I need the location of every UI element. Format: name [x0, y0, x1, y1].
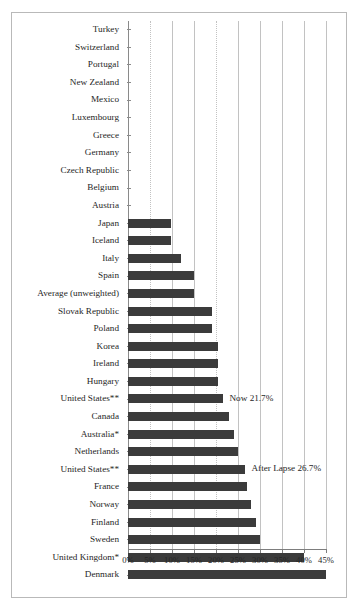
category-label: Japan — [12, 215, 125, 233]
bar-row — [128, 197, 326, 215]
bar — [128, 447, 238, 456]
bar — [128, 570, 326, 579]
x-tick-label: 25% — [230, 555, 246, 565]
category-label: Korea — [12, 338, 125, 356]
bar-row — [128, 338, 326, 356]
category-label: Ireland — [12, 355, 125, 373]
category-label: Germany — [12, 144, 125, 162]
category-label: Denmark — [12, 566, 125, 584]
x-tick — [326, 549, 327, 553]
bar — [128, 236, 171, 245]
category-label: Greece — [12, 127, 125, 145]
x-tick-label: 15% — [186, 555, 202, 565]
bar-row — [128, 303, 326, 321]
category-label: United Kingdom* — [12, 549, 125, 567]
bar-row — [128, 21, 326, 39]
category-tick — [127, 82, 131, 83]
category-label: Average (unweighted) — [12, 285, 125, 303]
bar-rows: Now 21.7%After Lapse 26.7% — [128, 21, 326, 549]
category-tick — [127, 47, 131, 48]
bar-row — [128, 127, 326, 145]
x-tick — [150, 549, 151, 553]
bar-row — [128, 250, 326, 268]
x-tick — [216, 549, 217, 553]
bar-row — [128, 496, 326, 514]
x-tick — [260, 549, 261, 553]
bar-row — [128, 109, 326, 127]
bar-row — [128, 566, 326, 584]
category-label: United States** — [12, 390, 125, 408]
bar — [128, 394, 223, 403]
category-label: Portugal — [12, 56, 125, 74]
category-label: Czech Republic — [12, 162, 125, 180]
bar — [128, 465, 245, 474]
bar — [128, 324, 212, 333]
bar — [128, 430, 234, 439]
category-label: Turkey — [12, 21, 125, 39]
category-label: Spain — [12, 267, 125, 285]
x-tick-label: 30% — [252, 555, 268, 565]
bar-row — [128, 179, 326, 197]
bar — [128, 359, 218, 368]
bar-row — [128, 514, 326, 532]
category-tick — [127, 170, 131, 171]
category-tick — [127, 100, 131, 101]
category-tick — [127, 117, 131, 118]
bar — [128, 271, 194, 280]
x-tick-label: 20% — [208, 555, 224, 565]
bar — [128, 289, 194, 298]
bar — [128, 219, 171, 228]
bar-row — [128, 373, 326, 391]
category-label: Mexico — [12, 91, 125, 109]
bar-row — [128, 408, 326, 426]
category-label: Austria — [12, 197, 125, 215]
category-label: Iceland — [12, 232, 125, 250]
bar-row — [128, 56, 326, 74]
gridline-45pct — [326, 21, 327, 549]
x-tick — [172, 549, 173, 553]
category-label: Belgium — [12, 179, 125, 197]
x-tick-label: 5% — [144, 555, 155, 565]
bar-row — [128, 531, 326, 549]
bar-row — [128, 355, 326, 373]
bar-row — [128, 162, 326, 180]
category-label: Switzerland — [12, 39, 125, 57]
bar-row — [128, 443, 326, 461]
x-axis — [128, 549, 326, 551]
category-tick — [127, 29, 131, 30]
bar — [128, 377, 218, 386]
category-label: Italy — [12, 250, 125, 268]
x-axis-line — [128, 549, 326, 550]
bar — [128, 500, 251, 509]
x-tick — [304, 549, 305, 553]
bar — [128, 518, 256, 527]
bar — [128, 482, 247, 491]
bar-row — [128, 320, 326, 338]
category-label: Luxembourg — [12, 109, 125, 127]
bar-row — [128, 426, 326, 444]
x-tick — [128, 549, 129, 553]
bar-row — [128, 74, 326, 92]
bar-row — [128, 267, 326, 285]
x-tick-label: 35% — [274, 555, 290, 565]
x-tick — [238, 549, 239, 553]
bar-row: Now 21.7% — [128, 390, 326, 408]
category-label: Norway — [12, 496, 125, 514]
bar — [128, 535, 260, 544]
category-label: United States** — [12, 461, 125, 479]
category-tick — [127, 205, 131, 206]
bar-row — [128, 91, 326, 109]
category-label: Hungary — [12, 373, 125, 391]
chart-figure: TurkeySwitzerlandPortugalNew ZealandMexi… — [11, 12, 347, 598]
category-label: Finland — [12, 514, 125, 532]
category-tick — [127, 152, 131, 153]
category-label: Netherlands — [12, 443, 125, 461]
category-label: Slovak Republic — [12, 303, 125, 321]
bar-row: After Lapse 26.7% — [128, 461, 326, 479]
bar-annotation: After Lapse 26.7% — [251, 463, 321, 473]
bar — [128, 412, 229, 421]
category-tick — [127, 135, 131, 136]
bar-row — [128, 215, 326, 233]
x-tick — [194, 549, 195, 553]
plot-area: Now 21.7%After Lapse 26.7% — [128, 21, 326, 549]
